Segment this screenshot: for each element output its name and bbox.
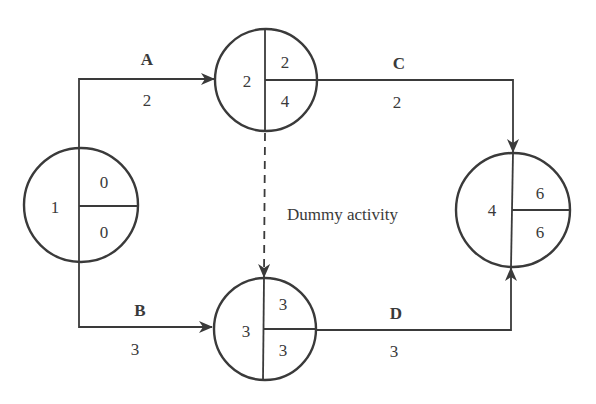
activity-a-arrow [79, 79, 214, 148]
node-2-earliest: 2 [281, 53, 290, 72]
node-3-id: 3 [242, 322, 251, 341]
activity-a-duration: 2 [143, 91, 152, 110]
dummy-activity-label: Dummy activity [287, 205, 398, 224]
node-4-id: 4 [488, 201, 497, 220]
activity-d-arrow [315, 268, 511, 330]
node-1: 1 0 0 [24, 148, 138, 262]
node-1-id: 1 [51, 198, 60, 217]
node-2-id: 2 [243, 72, 252, 91]
node-3-earliest: 3 [279, 295, 288, 314]
node-3: 3 3 3 [214, 278, 316, 380]
activity-b-duration: 3 [131, 340, 140, 359]
activity-c: C 2 [316, 54, 513, 153]
network-diagram: A 2 B 3 C 2 D 3 Dummy activity 1 0 0 2 [0, 0, 596, 404]
activity-c-name: C [393, 54, 405, 73]
activity-c-arrow [316, 80, 513, 152]
activity-b-name: B [134, 301, 145, 320]
activity-a: A 2 [79, 50, 214, 149]
node-1-circle [24, 148, 138, 262]
node-1-latest: 0 [100, 223, 109, 242]
activity-a-name: A [141, 50, 154, 69]
node-4-earliest: 6 [536, 184, 545, 203]
dummy-activity-arrow [264, 133, 265, 277]
node-3-latest: 3 [279, 341, 288, 360]
node-1-earliest: 0 [100, 173, 109, 192]
activity-d: D 3 [315, 268, 511, 361]
activity-b: B 3 [79, 262, 212, 359]
node-4: 4 6 6 [456, 153, 570, 267]
activity-c-duration: 2 [393, 93, 402, 112]
node-2: 2 2 4 [215, 29, 317, 131]
node-4-latest: 6 [536, 223, 545, 242]
node-2-latest: 4 [281, 92, 290, 111]
activity-d-duration: 3 [390, 342, 399, 361]
dummy-activity: Dummy activity [264, 133, 398, 277]
activity-d-name: D [390, 304, 402, 323]
